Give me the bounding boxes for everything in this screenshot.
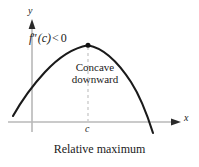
concavity-line-1: Concave	[76, 61, 114, 73]
second-derivative-relation: <	[51, 31, 60, 45]
x-axis-arrowhead-icon	[171, 119, 181, 126]
second-derivative-value: 0	[60, 31, 68, 45]
y-axis-label: y	[28, 6, 32, 17]
concavity-line-2: downward	[72, 73, 118, 85]
critical-point-dot	[86, 43, 91, 48]
relative-maximum-figure: y x f″(c)<0 Concavedownward c Relative m…	[0, 0, 199, 167]
second-derivative-annotation: f″(c)<0	[29, 32, 68, 45]
concavity-annotation: Concavedownward	[64, 62, 126, 86]
function-curve	[13, 45, 153, 133]
second-derivative-argument: (c)	[38, 31, 51, 45]
x-axis-label: x	[184, 113, 188, 124]
critical-point-label: c	[85, 124, 89, 135]
y-axis-arrowhead-icon	[29, 19, 36, 29]
figure-caption: Relative maximum	[0, 143, 199, 156]
